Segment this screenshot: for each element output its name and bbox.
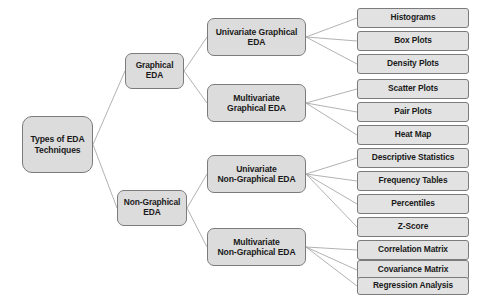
node-label-regression-analysis: Regression Analysis xyxy=(358,281,468,291)
node-label-correlation-matrix: Correlation Matrix xyxy=(358,245,468,255)
connector-univariate-non-graphical-to-frequency-tables xyxy=(306,174,357,181)
node-multivariate-graphical[interactable]: Multivariate Graphical EDA xyxy=(207,84,306,122)
leaf-node-regression-analysis[interactable]: Regression Analysis xyxy=(357,277,469,295)
leaf-node-descriptive-statistics[interactable]: Descriptive Statistics xyxy=(357,148,469,168)
connector-root-to-graphical xyxy=(93,71,125,145)
leaf-node-pair-plots[interactable]: Pair Plots xyxy=(357,102,469,122)
node-label-univariate-non-graphical: Univariate Non-Graphical EDA xyxy=(208,164,305,184)
node-label-non-graphical: Non-Graphical EDA xyxy=(118,198,186,218)
leaf-node-histograms[interactable]: Histograms xyxy=(357,8,469,28)
node-label-descriptive-statistics: Descriptive Statistics xyxy=(358,153,468,163)
node-label-root: Types of EDA Techniques xyxy=(23,134,92,154)
node-label-percentiles: Percentiles xyxy=(358,199,468,209)
node-label-histograms: Histograms xyxy=(358,13,468,23)
leaf-node-scatter-plots[interactable]: Scatter Plots xyxy=(357,79,469,99)
connector-univariate-non-graphical-to-descriptive-statistics xyxy=(306,158,357,174)
node-label-univariate-graphical: Univariate Graphical EDA xyxy=(208,27,305,47)
node-root[interactable]: Types of EDA Techniques xyxy=(22,116,93,173)
connector-root-to-non-graphical xyxy=(93,145,117,209)
node-univariate-graphical[interactable]: Univariate Graphical EDA xyxy=(207,18,306,56)
node-label-covariance-matrix: Covariance Matrix xyxy=(358,265,468,275)
node-label-box-plots: Box Plots xyxy=(358,36,468,46)
node-label-density-plots: Density Plots xyxy=(358,59,468,69)
leaf-node-correlation-matrix[interactable]: Correlation Matrix xyxy=(357,240,469,260)
node-label-heat-map: Heat Map xyxy=(358,130,468,140)
connector-graphical-to-multivariate-graphical xyxy=(184,71,207,103)
connector-multivariate-non-graphical-to-correlation-matrix xyxy=(306,247,357,250)
connector-univariate-graphical-to-density-plots xyxy=(306,37,357,64)
leaf-node-percentiles[interactable]: Percentiles xyxy=(357,194,469,214)
leaf-node-heat-map[interactable]: Heat Map xyxy=(357,125,469,145)
node-graphical[interactable]: Graphical EDA xyxy=(125,53,184,89)
connector-non-graphical-to-univariate-non-graphical xyxy=(187,174,207,208)
node-label-z-score: Z-Score xyxy=(358,222,468,232)
node-label-multivariate-graphical: Multivariate Graphical EDA xyxy=(208,93,305,113)
connector-univariate-non-graphical-to-z-score xyxy=(306,174,357,227)
node-univariate-non-graphical[interactable]: Univariate Non-Graphical EDA xyxy=(207,155,306,193)
node-label-scatter-plots: Scatter Plots xyxy=(358,84,468,94)
connector-graphical-to-univariate-graphical xyxy=(184,37,207,71)
connector-univariate-non-graphical-to-percentiles xyxy=(306,174,357,204)
leaf-node-z-score[interactable]: Z-Score xyxy=(357,217,469,237)
connector-univariate-graphical-to-histograms xyxy=(306,18,357,37)
leaf-node-frequency-tables[interactable]: Frequency Tables xyxy=(357,171,469,191)
node-label-graphical: Graphical EDA xyxy=(126,61,183,81)
node-label-multivariate-non-graphical: Multivariate Non-Graphical EDA xyxy=(208,237,305,257)
node-label-frequency-tables: Frequency Tables xyxy=(358,176,468,186)
connector-multivariate-graphical-to-scatter-plots xyxy=(306,89,357,103)
leaf-node-box-plots[interactable]: Box Plots xyxy=(357,31,469,51)
node-label-pair-plots: Pair Plots xyxy=(358,107,468,117)
connector-non-graphical-to-multivariate-non-graphical xyxy=(187,208,207,247)
leaf-node-density-plots[interactable]: Density Plots xyxy=(357,54,469,74)
eda-techniques-diagram: Types of EDA TechniquesGraphical EDANon-… xyxy=(0,0,479,296)
connector-univariate-graphical-to-box-plots xyxy=(306,37,357,41)
node-multivariate-non-graphical[interactable]: Multivariate Non-Graphical EDA xyxy=(207,228,306,266)
node-non-graphical[interactable]: Non-Graphical EDA xyxy=(117,190,187,226)
